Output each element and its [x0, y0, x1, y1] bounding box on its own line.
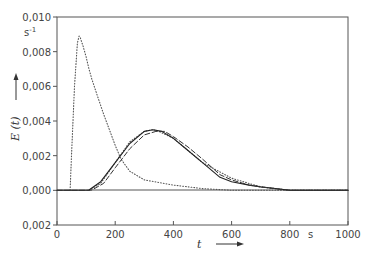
series-line-2 [57, 130, 348, 191]
y-tick-label: 0,004 [22, 116, 51, 127]
x-tick-label: 200 [106, 229, 125, 240]
plot-frame [57, 17, 348, 225]
x-unit-label: s [308, 229, 313, 240]
y-tick-label: 0,010 [22, 12, 51, 23]
y-axis-label: E (t) [9, 116, 22, 142]
chart-canvas: 0,0100,0080,0060,0040,0020,0000,002 0200… [0, 0, 368, 255]
data-series [57, 36, 348, 190]
x-axis-arrow-icon [216, 242, 244, 247]
x-axis-label: t [197, 238, 202, 251]
x-tick-label: 1000 [335, 229, 360, 240]
y-axis-arrow-icon [14, 73, 19, 100]
x-axis-ticks: 02004006008001000 [54, 221, 361, 240]
x-tick-label: 600 [222, 229, 241, 240]
series-line-1 [89, 130, 348, 191]
y-tick-label: 0,002 [22, 151, 51, 162]
y-axis-ticks: 0,0100,0080,0060,0040,0020,0000,002 [22, 12, 57, 231]
y-tick-label: 0,006 [22, 81, 51, 92]
y-tick-label: 0,008 [22, 47, 51, 58]
x-tick-label: 800 [280, 229, 299, 240]
y-tick-label: 0,000 [22, 185, 51, 196]
x-tick-label: 0 [54, 229, 60, 240]
y-unit-label: s-1 [24, 26, 36, 38]
x-tick-label: 400 [164, 229, 183, 240]
y-tick-label: 0,002 [22, 220, 51, 231]
